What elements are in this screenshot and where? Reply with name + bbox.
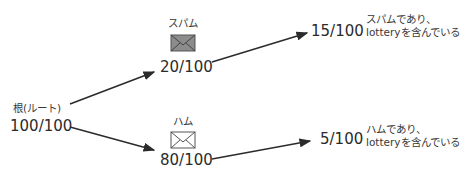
ham-lottery-desc-line1: ハムであり、 xyxy=(366,123,460,136)
ham-lottery-desc-line2: lotteryを含んでいる xyxy=(366,136,460,149)
ham-lottery-desc: ハムであり、 lotteryを含んでいる xyxy=(366,123,460,149)
spam-lottery-desc: スパムであり、 lotteryを含んでいる xyxy=(366,13,460,39)
edge-spam-lottery xyxy=(212,33,307,62)
spam-lottery-desc-line2: lotteryを含んでいる xyxy=(366,26,460,39)
edge-root-spam xyxy=(70,72,154,104)
spam-value: 20/100 xyxy=(160,58,213,76)
spam-label: スパム xyxy=(168,15,198,30)
ham-label: ハム xyxy=(173,113,193,128)
root-value: 100/100 xyxy=(10,117,72,135)
edge-root-ham xyxy=(70,127,154,150)
spam-lottery-desc-line1: スパムであり、 xyxy=(366,13,460,26)
root-label: 根(ルート) xyxy=(13,100,61,115)
envelope-outline-icon xyxy=(171,132,195,148)
envelope-filled-icon xyxy=(171,35,195,51)
ham-lottery-value: 5/100 xyxy=(320,130,363,148)
edge-ham-lottery xyxy=(212,141,310,159)
spam-lottery-value: 15/100 xyxy=(311,22,364,40)
ham-value: 80/100 xyxy=(160,151,213,169)
